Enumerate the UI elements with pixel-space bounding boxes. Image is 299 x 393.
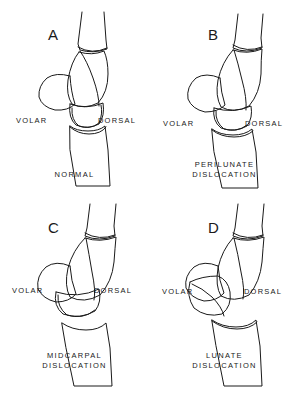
caption-line-1: MIDCARPAL	[0, 351, 149, 361]
caption-line-2: DISLOCATION	[0, 361, 149, 371]
dorsal-label-d: DORSAL	[244, 288, 282, 296]
carpal-dislocation-figure: A VOLAR DORSAL NORMAL B VOLAR DORSAL	[0, 0, 299, 393]
volar-label-c: VOLAR	[12, 287, 43, 295]
panel-b-perilunate: B VOLAR DORSAL PERILUNATE DISLOCATION	[150, 0, 299, 196]
caption-line-2: DISLOCATION	[150, 361, 299, 371]
panel-letter-d: D	[208, 220, 219, 235]
dorsal-label-b: DORSAL	[245, 120, 283, 128]
panel-caption-a: NORMAL	[0, 170, 149, 180]
volar-label-a: VOLAR	[16, 117, 47, 125]
panel-a-drawing	[0, 0, 149, 196]
caption-line-2: DISLOCATION	[150, 170, 299, 180]
panel-letter-b: B	[208, 27, 219, 42]
caption-line-1: LUNATE	[150, 351, 299, 361]
caption-line-1: NORMAL	[0, 170, 149, 180]
panel-caption-c: MIDCARPAL DISLOCATION	[0, 351, 149, 371]
panel-letter-c: C	[48, 220, 59, 235]
panel-a-normal: A VOLAR DORSAL NORMAL	[0, 0, 149, 196]
volar-label-d: VOLAR	[162, 288, 193, 296]
panel-c-midcarpal: C VOLAR DORSAL MIDCARPAL DISLOCATION	[0, 196, 149, 392]
dorsal-label-c: DORSAL	[94, 287, 132, 295]
panel-caption-b: PERILUNATE DISLOCATION	[150, 160, 299, 180]
volar-label-b: VOLAR	[163, 120, 194, 128]
panel-caption-d: LUNATE DISLOCATION	[150, 351, 299, 371]
panel-d-lunate: D VOLAR DORSAL LUNATE DISLOCATION	[150, 196, 299, 392]
caption-line-1: PERILUNATE	[150, 160, 299, 170]
panel-letter-a: A	[48, 27, 59, 42]
dorsal-label-a: DORSAL	[98, 117, 136, 125]
